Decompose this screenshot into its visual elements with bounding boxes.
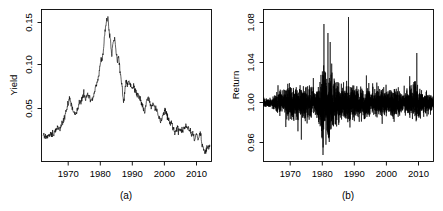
x-axis-ticklabels-b: 1970 1980 1990 2000 2010 <box>280 168 429 179</box>
x-ticklabel-a-4: 2010 <box>186 168 207 179</box>
figure-panel-container: 0.15 0.10 0.05 Yield 1970 1980 1990 2000… <box>0 0 443 211</box>
y-axis-ticks-b <box>260 23 264 143</box>
y-axis-title-b: Return <box>230 71 241 100</box>
x-ticklabel-b-3: 2000 <box>376 168 397 179</box>
y-axis-ticklabels-b: 1.08 1.04 1.00 0.96 <box>245 13 256 152</box>
y-axis-ticklabels-a: 0.15 0.10 0.05 <box>23 13 34 118</box>
y-ticklabel-a-2: 0.15 <box>23 13 34 32</box>
x-ticklabel-b-1: 1980 <box>312 168 333 179</box>
x-ticklabel-a-0: 1970 <box>58 168 79 179</box>
x-ticklabel-a-2: 1990 <box>122 168 143 179</box>
x-axis-ticks-a <box>68 162 196 166</box>
y-ticklabel-a-1: 0.10 <box>23 55 34 74</box>
x-ticklabel-a-1: 1980 <box>90 168 111 179</box>
y-ticklabel-b-2: 1.04 <box>245 53 256 72</box>
chart-panel-b: 1.08 1.04 1.00 0.96 Return 1970 1980 199… <box>222 0 443 211</box>
y-ticklabel-b-1: 1.00 <box>245 93 256 112</box>
panel-caption-b: (b) <box>342 190 354 201</box>
y-ticklabel-b-3: 1.08 <box>245 13 256 32</box>
x-ticklabel-b-2: 1990 <box>344 168 365 179</box>
x-axis-ticklabels-a: 1970 1980 1990 2000 2010 <box>58 168 207 179</box>
chart-svg-a: 0.15 0.10 0.05 Yield 1970 1980 1990 2000… <box>0 0 221 211</box>
plot-frame-a <box>42 10 212 162</box>
y-ticklabel-a-0: 0.05 <box>23 99 34 118</box>
chart-panel-a: 0.15 0.10 0.05 Yield 1970 1980 1990 2000… <box>0 0 221 211</box>
y-ticklabel-b-0: 0.96 <box>245 133 256 152</box>
y-axis-ticks-a <box>38 23 42 109</box>
panel-caption-a: (a) <box>120 190 132 201</box>
x-axis-ticks-b <box>290 162 418 166</box>
x-ticklabel-b-4: 2010 <box>408 168 429 179</box>
x-ticklabel-b-0: 1970 <box>280 168 301 179</box>
y-axis-title-a: Yield <box>8 75 19 96</box>
chart-svg-b: 1.08 1.04 1.00 0.96 Return 1970 1980 199… <box>222 0 443 211</box>
data-series-b <box>264 17 434 155</box>
x-ticklabel-a-3: 2000 <box>154 168 175 179</box>
data-series-a <box>43 16 210 153</box>
